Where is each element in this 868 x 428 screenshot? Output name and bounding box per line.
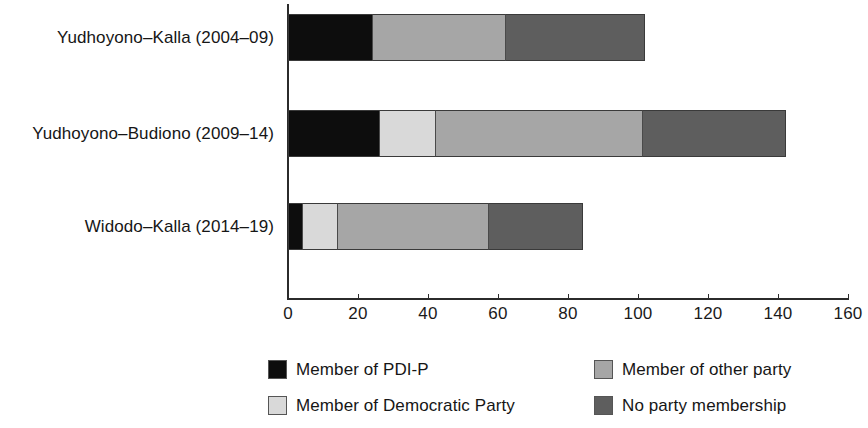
axis-tick-140 (778, 294, 779, 299)
axis-tick-label-120: 120 (694, 303, 723, 324)
bar-segment (505, 14, 645, 61)
bar-row (0, 14, 868, 61)
legend-label-member-of-pdi-p: Member of PDI-P (296, 359, 429, 380)
bar-segment (642, 110, 786, 157)
axis-tick-label-100: 100 (624, 303, 653, 324)
legend-swatch-no-party-membership (594, 396, 613, 415)
bar-row (0, 110, 868, 157)
bar-row (0, 203, 868, 250)
plot-area: 020406080100120140160 Yudhoyono–Kalla (2… (0, 0, 868, 310)
axis-tick-label-0: 0 (283, 303, 293, 324)
chart-legend: Member of PDI-P Member of other party Me… (0, 355, 868, 428)
legend-label-member-of-democratic-party: Member of Democratic Party (296, 395, 515, 416)
axis-tick-label-160: 160 (834, 303, 863, 324)
legend-label-no-party-membership: No party membership (622, 395, 786, 416)
legend-swatch-member-of-other-party (594, 360, 613, 379)
legend-item-member-of-democratic-party: Member of Democratic Party (268, 395, 515, 416)
legend-swatch-member-of-democratic-party (268, 396, 287, 415)
axis-tick-160 (848, 294, 849, 299)
legend-item-member-of-pdi-p: Member of PDI-P (268, 359, 429, 380)
legend-item-no-party-membership: No party membership (594, 395, 786, 416)
bar-segment (372, 14, 505, 61)
axis-tick-100 (638, 294, 639, 299)
legend-swatch-member-of-pdi-p (268, 360, 287, 379)
legend-item-member-of-other-party: Member of other party (594, 359, 791, 380)
axis-tick-60 (498, 294, 499, 299)
legend-label-member-of-other-party: Member of other party (622, 359, 791, 380)
axis-tick-120 (708, 294, 709, 299)
axis-tick-40 (428, 294, 429, 299)
axis-tick-80 (568, 294, 569, 299)
bar-segment (337, 203, 488, 250)
bar-segment (302, 203, 337, 250)
bar-segment (288, 14, 372, 61)
axis-tick-label-140: 140 (764, 303, 793, 324)
axis-tick-label-80: 80 (558, 303, 577, 324)
bar-segment (435, 110, 642, 157)
stacked-bar-chart: 020406080100120140160 Yudhoyono–Kalla (2… (0, 0, 868, 428)
bar-segment (488, 203, 583, 250)
bar-segment (379, 110, 435, 157)
axis-tick-label-20: 20 (348, 303, 367, 324)
bar-segment (288, 110, 379, 157)
axis-tick-label-40: 40 (418, 303, 437, 324)
bar-segment (288, 203, 302, 250)
axis-tick-label-60: 60 (488, 303, 507, 324)
axis-tick-20 (358, 294, 359, 299)
